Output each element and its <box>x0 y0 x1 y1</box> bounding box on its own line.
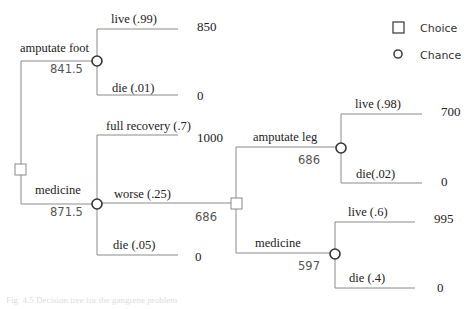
legend-choice-label: Choice <box>420 22 457 35</box>
chance-node-medicine <box>92 199 102 209</box>
label-worse: worse (.25) <box>114 187 171 201</box>
label-die-05: die (.05) <box>113 238 155 252</box>
ev-amputate-leg: 686 <box>298 153 320 167</box>
ev-medicine-2: 597 <box>298 259 320 273</box>
label-die-02: die(.02) <box>356 167 395 181</box>
figure-caption: Fig. 4.5 Decision tree for the gangrene … <box>6 295 471 305</box>
value-0-b: 0 <box>195 249 202 264</box>
label-medicine-2: medicine <box>255 236 301 250</box>
value-0-c: 0 <box>441 174 448 189</box>
value-995: 995 <box>434 211 454 226</box>
chance-node-amputate-foot <box>92 56 102 66</box>
legend: Choice Chance <box>393 22 461 62</box>
value-0-d: 0 <box>437 280 444 295</box>
decision-tree: amputate foot 841.5 medicine 871.5 live … <box>0 0 475 309</box>
label-die-4: die (.4) <box>349 271 385 285</box>
choice-legend-icon <box>393 22 404 33</box>
ev-worse: 686 <box>195 210 217 224</box>
ev-amputate-foot: 841.5 <box>50 62 83 76</box>
choice-node-worse <box>231 198 242 209</box>
value-700: 700 <box>441 104 461 119</box>
label-amputate-leg: amputate leg <box>253 130 318 144</box>
label-die-01: die (.01) <box>112 81 154 95</box>
value-850: 850 <box>197 19 217 34</box>
ev-medicine: 871.5 <box>50 205 83 219</box>
chance-legend-icon <box>394 50 402 58</box>
label-full-recovery: full recovery (.7) <box>106 119 191 133</box>
legend-chance-label: Chance <box>420 49 461 62</box>
chance-node-medicine-2 <box>330 249 340 259</box>
value-1000: 1000 <box>197 130 223 145</box>
chance-node-amputate-leg <box>336 143 346 153</box>
choice-node-root <box>15 164 26 175</box>
value-0-a: 0 <box>197 88 204 103</box>
label-live-6: live (.6) <box>348 205 388 219</box>
label-live-99: live (.99) <box>111 12 157 26</box>
label-amputate-foot: amputate foot <box>20 41 90 55</box>
label-medicine: medicine <box>35 183 81 197</box>
label-live-98: live (.98) <box>355 97 401 111</box>
